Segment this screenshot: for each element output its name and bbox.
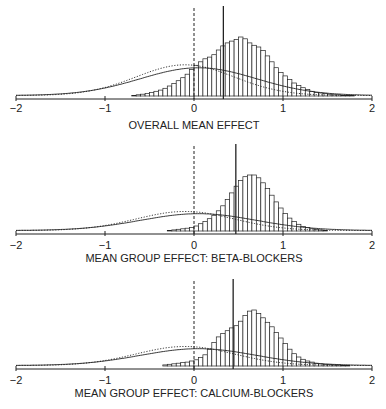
histogram-bar <box>225 43 230 96</box>
histogram-bar <box>141 94 146 96</box>
histogram-bar <box>212 343 217 367</box>
histogram-bar <box>296 85 301 96</box>
histogram-bar <box>252 45 257 96</box>
histogram-bar <box>154 91 159 96</box>
panel-title: MEAN GROUP EFFECT: BETA-BLOCKERS <box>85 252 302 264</box>
histogram-bar <box>247 43 252 96</box>
histogram-bar <box>172 364 177 366</box>
histogram-bar <box>270 195 275 231</box>
histogram-bar <box>172 230 177 231</box>
x-tick-label: 2 <box>369 239 375 251</box>
histogram-bar <box>283 344 288 366</box>
histogram-bar <box>167 364 172 366</box>
histogram-bar <box>185 228 190 231</box>
histogram-bar <box>158 90 163 96</box>
histogram-bar <box>199 358 204 366</box>
histogram-bar <box>230 193 235 231</box>
histogram-bar <box>296 224 301 231</box>
histogram-bar <box>216 337 221 366</box>
x-tick-label: −1 <box>99 239 112 251</box>
histogram-bar <box>176 229 181 231</box>
panel-beta-blockers: −2−1012MEAN GROUP EFFECT: BETA-BLOCKERS <box>10 144 375 264</box>
histogram-bar <box>279 338 284 366</box>
histogram <box>132 37 355 96</box>
histogram-bar <box>132 95 137 96</box>
histogram-bar <box>185 362 190 366</box>
histogram-bar <box>234 39 239 96</box>
histogram-bar <box>265 188 270 231</box>
histogram-bar <box>216 50 221 96</box>
histogram-bar <box>265 56 270 96</box>
x-tick-label: 0 <box>191 102 197 114</box>
histogram-bar <box>163 365 168 366</box>
histogram-bar <box>176 363 181 366</box>
histogram-bar <box>261 51 266 96</box>
histogram-bar <box>239 37 244 96</box>
x-tick-label: −1 <box>99 102 112 114</box>
histogram-bar <box>274 332 279 366</box>
histogram-bar <box>190 70 195 97</box>
histogram-bar <box>207 219 212 231</box>
histogram <box>167 175 327 231</box>
histogram-bar <box>256 178 261 231</box>
histogram-bar <box>150 93 155 97</box>
x-tick-label: 2 <box>369 102 375 114</box>
figure: −2−1012OVERALL MEAN EFFECT −2−1012MEAN G… <box>0 0 386 409</box>
histogram-bar <box>176 81 181 96</box>
histogram-bar <box>181 229 186 231</box>
histogram-bar <box>190 228 195 231</box>
x-tick-label: 1 <box>280 102 286 114</box>
histogram-bar <box>212 55 217 96</box>
x-tick-label: 1 <box>280 374 286 386</box>
histogram-bar <box>292 83 297 96</box>
x-tick-label: −2 <box>10 239 23 251</box>
histogram-bar <box>194 65 199 96</box>
histogram-bar <box>274 202 279 231</box>
histogram-bar <box>207 349 212 366</box>
x-tick-label: 1 <box>280 239 286 251</box>
histogram-bar <box>239 321 244 366</box>
histogram-bar <box>305 361 310 366</box>
panel-calcium-blockers: −2−1012MEAN GROUP EFFECT: CALCIUM-BLOCKE… <box>10 279 375 399</box>
histogram-bar <box>261 183 266 231</box>
histogram-bar <box>274 68 279 96</box>
histogram-bar <box>185 74 190 96</box>
histogram-bar <box>172 84 177 96</box>
x-tick-label: 2 <box>369 374 375 386</box>
histogram-bar <box>234 326 239 366</box>
panel-title: MEAN GROUP EFFECT: CALCIUM-BLOCKERS <box>75 387 314 399</box>
histogram-bar <box>270 62 275 96</box>
histogram-bar <box>167 86 172 96</box>
histogram-bar <box>203 59 208 96</box>
histogram-bar <box>256 313 261 366</box>
histogram-bar <box>239 181 244 231</box>
histogram-bar <box>225 331 230 366</box>
histogram-bar <box>252 310 256 366</box>
histogram-bar <box>261 318 266 366</box>
histogram-bar <box>190 361 195 366</box>
histogram-bar <box>207 57 212 96</box>
x-tick-label: −1 <box>99 374 112 386</box>
histogram-bar <box>256 47 261 96</box>
histogram-bar <box>212 215 217 231</box>
histogram-bar <box>252 175 257 231</box>
histogram-bar <box>243 177 248 231</box>
histogram-bar <box>203 222 208 232</box>
histogram-bar <box>194 360 199 366</box>
histogram-bar <box>287 218 292 231</box>
histogram-bar <box>247 175 252 231</box>
histogram-bar <box>301 88 306 96</box>
histogram-bar <box>243 316 248 366</box>
histogram-bar <box>270 327 275 366</box>
histogram-bar <box>279 72 284 96</box>
histogram-bar <box>221 206 226 231</box>
x-tick-label: 0 <box>191 239 197 251</box>
panel-title: OVERALL MEAN EFFECT <box>128 119 259 131</box>
x-tick-label: −2 <box>10 374 23 386</box>
histogram-bar <box>181 78 186 96</box>
histogram-bar <box>181 363 186 366</box>
histogram-bar <box>145 94 150 96</box>
panel-overall-mean-effect: −2−1012OVERALL MEAN EFFECT <box>10 6 375 131</box>
x-tick-label: −2 <box>10 102 23 114</box>
histogram-bar <box>163 88 168 96</box>
